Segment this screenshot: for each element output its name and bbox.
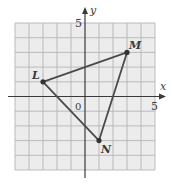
coordinate-plane: x y 5 5 0 L M N bbox=[0, 0, 173, 184]
y-axis-label: y bbox=[89, 4, 97, 17]
x-tick-label-5: 5 bbox=[151, 100, 158, 113]
y-tick-label-5: 5 bbox=[75, 17, 82, 30]
point-n-label: N bbox=[100, 143, 112, 156]
origin-label: 0 bbox=[75, 101, 81, 112]
x-axis-label: x bbox=[160, 80, 167, 93]
x-axis-arrow-icon bbox=[159, 94, 166, 100]
point-l-label: L bbox=[31, 69, 40, 82]
y-axis-arrow-icon bbox=[82, 7, 88, 14]
point-m-label: M bbox=[128, 39, 142, 52]
point-l bbox=[40, 79, 45, 84]
